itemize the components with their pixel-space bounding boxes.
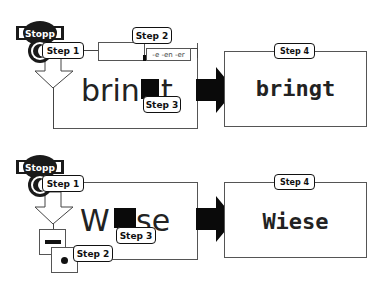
suffix-options-text: -e -en -er bbox=[146, 48, 191, 61]
svg-text:Stopp: Stopp bbox=[25, 29, 55, 39]
step-4-label: Step 4 bbox=[274, 174, 315, 190]
connector-line bbox=[197, 48, 198, 58]
result-word: bringt bbox=[224, 70, 367, 108]
result-word: Wiese bbox=[224, 203, 367, 241]
step-2-label: Step 2 bbox=[132, 27, 172, 44]
step-4-label: Step 4 bbox=[274, 43, 315, 59]
step-3-label: Step 3 bbox=[143, 96, 181, 113]
missing-letters-block bbox=[114, 208, 136, 228]
svg-text:Stopp: Stopp bbox=[25, 163, 55, 173]
dot-option bbox=[61, 257, 68, 264]
word-prefix: W bbox=[80, 206, 110, 236]
dash-option bbox=[45, 240, 61, 244]
step-1-label: Step 1 bbox=[42, 175, 84, 192]
connector-line bbox=[84, 50, 98, 51]
step-1-label: Step 1 bbox=[42, 42, 84, 59]
letter-slot-box bbox=[98, 42, 145, 61]
cursor-mark bbox=[143, 55, 146, 61]
connector-line bbox=[53, 86, 54, 129]
word-prefix: brin bbox=[81, 76, 140, 106]
step-3-label: Step 3 bbox=[116, 227, 156, 244]
step-2-label: Step 2 bbox=[73, 245, 113, 262]
